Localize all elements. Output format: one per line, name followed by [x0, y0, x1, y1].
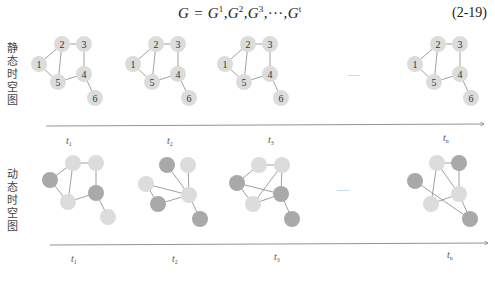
svg-text:1: 1: [223, 59, 228, 70]
dynamic-graph-t1: [42, 155, 116, 225]
svg-text:5: 5: [242, 77, 247, 88]
svg-text:5: 5: [56, 77, 61, 88]
svg-text:t1: t1: [66, 135, 72, 147]
static-ellipsis: ......: [348, 69, 360, 78]
dynamic-time-axis: [50, 243, 488, 245]
svg-text:t2: t2: [172, 253, 178, 265]
svg-text:4: 4: [268, 69, 273, 80]
spatiotemporal-figure: 12 34 56 12 34 56 12 34 56: [0, 0, 495, 282]
static-graph-t3: 12 34 56: [217, 36, 289, 106]
svg-text:1: 1: [37, 59, 42, 70]
svg-text:2: 2: [436, 39, 441, 50]
svg-text:tn: tn: [443, 132, 449, 144]
svg-text:4: 4: [82, 69, 87, 80]
svg-text:1: 1: [131, 59, 136, 70]
svg-text:2: 2: [246, 39, 251, 50]
svg-text:2: 2: [154, 39, 159, 50]
svg-text:3: 3: [176, 39, 181, 50]
static-graph-t2: 12 34 56: [125, 36, 197, 106]
svg-text:6: 6: [187, 93, 192, 104]
svg-text:2: 2: [60, 39, 65, 50]
static-time-axis: [46, 124, 484, 126]
dynamic-graph-tn: [407, 155, 478, 227]
svg-text:5: 5: [150, 77, 155, 88]
svg-text:3: 3: [458, 39, 463, 50]
dynamic-graph-t2: [138, 157, 208, 227]
svg-text:6: 6: [469, 93, 474, 104]
svg-text:6: 6: [93, 93, 98, 104]
svg-text:1: 1: [413, 59, 418, 70]
dynamic-graph-t3: [229, 157, 300, 227]
svg-text:t3: t3: [274, 251, 280, 263]
svg-text:4: 4: [176, 69, 181, 80]
dynamic-ellipsis: ......: [337, 184, 349, 193]
svg-text:tn: tn: [447, 249, 453, 261]
static-graph-tn: 12 34 56: [407, 36, 479, 106]
svg-text:4: 4: [458, 69, 463, 80]
svg-text:t3: t3: [268, 134, 274, 146]
svg-text:3: 3: [82, 39, 87, 50]
svg-text:t1: t1: [71, 253, 77, 265]
static-graph-t1: 12 34 56: [31, 36, 103, 106]
svg-text:5: 5: [432, 77, 437, 88]
svg-text:t2: t2: [167, 135, 173, 147]
svg-text:3: 3: [268, 39, 273, 50]
svg-text:6: 6: [279, 93, 284, 104]
